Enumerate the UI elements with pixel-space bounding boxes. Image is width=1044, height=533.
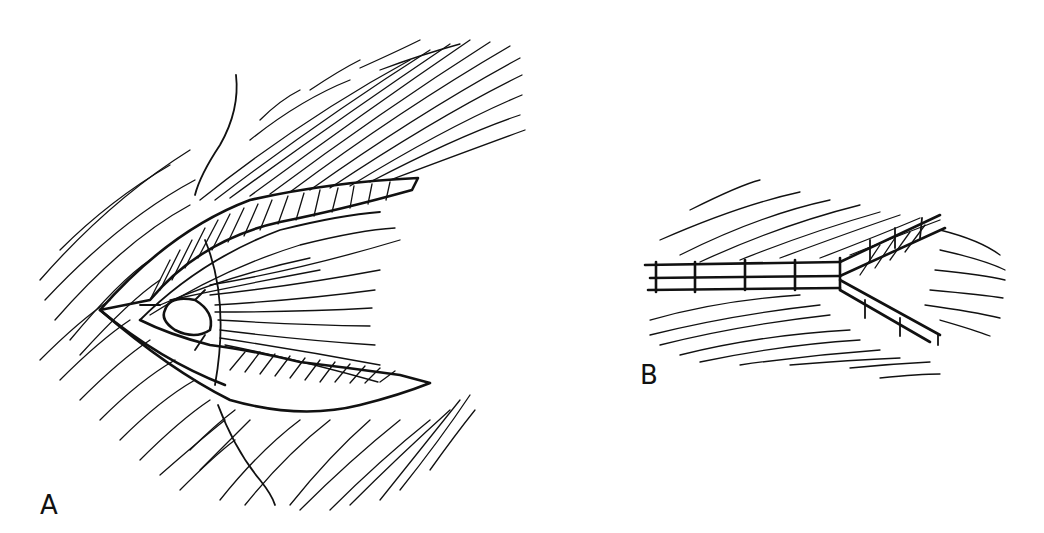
panel-a-skin-hatching-lower [190,395,475,510]
panel-a-skin-hatching-left [40,150,235,490]
panel-a-lower-flap [100,310,430,411]
panel-a-label: A [40,492,58,518]
panel-a-skin-hatching-upper [200,40,525,200]
surgical-illustration: A B [0,0,1044,533]
panel-b-label: B [640,362,658,388]
panel-b-drawing [645,180,1005,378]
panel-a-drawing [0,0,1044,533]
